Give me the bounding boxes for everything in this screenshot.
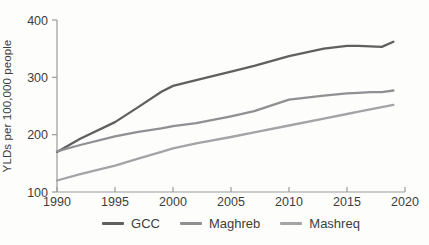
y-tick-label: 400 [27,14,48,28]
legend-label-mashreq: Mashreq [309,216,360,231]
y-axis-title: YLDs per 100,000 people [1,26,13,186]
legend-item-gcc: GCC [102,216,160,231]
y-tick-label: 300 [27,71,48,85]
x-tick-label: 2015 [333,195,361,209]
mashreq-line [57,105,393,181]
legend: GCCMaghrebMashreq [57,216,405,231]
y-tick-label: 200 [27,128,48,142]
yld-line-chart: 1002003004001990199520002005201020152020… [0,0,429,245]
chart-canvas: 1002003004001990199520002005201020152020 [0,0,429,245]
legend-item-mashreq: Mashreq [280,216,360,231]
x-tick-label: 2000 [159,195,187,209]
legend-label-maghreb: Maghreb [209,216,260,231]
x-tick-label: 1990 [43,195,71,209]
x-tick-label: 2010 [275,195,303,209]
legend-swatch-gcc [102,222,124,225]
legend-swatch-maghreb [180,222,202,225]
gcc-line [57,42,393,152]
legend-item-maghreb: Maghreb [180,216,260,231]
maghreb-line [57,91,393,152]
legend-swatch-mashreq [280,222,302,225]
legend-label-gcc: GCC [131,216,160,231]
x-tick-label: 2020 [391,195,419,209]
x-tick-label: 1995 [101,195,129,209]
x-tick-label: 2005 [217,195,245,209]
